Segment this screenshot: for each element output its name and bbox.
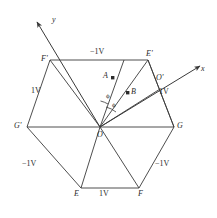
vertex-label-e: E bbox=[74, 190, 79, 198]
edge-label-upper-right: 1V bbox=[159, 88, 169, 96]
point-label-b: B bbox=[131, 88, 136, 96]
x-axis-label: x bbox=[201, 65, 205, 73]
vertex-label-f-prime: F' bbox=[41, 55, 48, 63]
hexagon-outline bbox=[27, 60, 174, 188]
spoke-o-fprime bbox=[50, 60, 100, 127]
edge-label-top: −1V bbox=[90, 48, 104, 56]
center-label-o: O bbox=[97, 131, 103, 139]
point-b-dot bbox=[126, 91, 129, 94]
edge-label-lower-right: −1V bbox=[155, 160, 169, 168]
vertex-label-g-prime: G' bbox=[14, 122, 22, 130]
point-label-a: A bbox=[103, 72, 108, 80]
edge-label-lower-left: −1V bbox=[22, 160, 36, 168]
angle-label-phi-2: ϕ bbox=[112, 102, 116, 109]
diagram-canvas bbox=[0, 0, 217, 218]
y-axis-label: y bbox=[52, 16, 56, 24]
point-label-o-prime: O' bbox=[156, 74, 164, 82]
angle-label-phi-1: ϕ bbox=[106, 93, 110, 100]
point-a-dot bbox=[111, 76, 114, 79]
angle-arc-phi-1 bbox=[101, 101, 109, 104]
vertex-label-f: F bbox=[138, 190, 143, 198]
geometry-figure: y x F' E' G F E G' O A B O' ϕ ϕ −1V 1V −… bbox=[0, 0, 217, 218]
point-markers bbox=[111, 76, 129, 94]
vertex-label-e-prime: E' bbox=[146, 50, 153, 58]
edge-label-bottom: 1V bbox=[99, 190, 109, 198]
vertex-label-g: G bbox=[177, 122, 183, 130]
edge-label-upper-left: 1V bbox=[31, 87, 41, 95]
y-axis bbox=[37, 22, 100, 127]
spoke-o-f bbox=[100, 127, 139, 188]
